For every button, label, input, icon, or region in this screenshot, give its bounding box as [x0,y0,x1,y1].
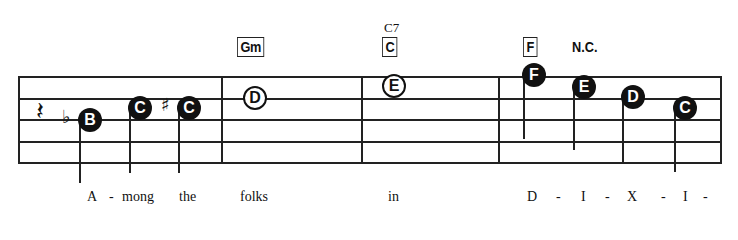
staff-line [18,76,720,78]
note-stem [622,97,624,162]
chord-symbol: C [382,37,398,57]
note-head: F [522,63,546,87]
note-head: E [382,74,406,98]
lyric-syllable: A [87,189,97,205]
staff-line [18,119,720,121]
lyric-syllable: - [556,189,561,205]
lyric-syllable: - [605,189,610,205]
barline [18,76,20,164]
lyric-syllable: I [581,189,586,205]
note-stem [129,108,131,173]
note-head: C [128,96,152,120]
note-head: B [78,108,102,132]
staff-line [18,98,720,100]
chord-symbol: N.C. [572,38,598,55]
note-head: C [177,96,201,120]
lyric-syllable: X [627,189,637,205]
note-head: C [673,96,697,120]
lyric-syllable: I [683,189,688,205]
note-stem [573,87,575,150]
barline [361,76,363,164]
note-stem [178,108,180,173]
barline [498,76,500,164]
lyric-syllable: folks [240,189,268,205]
chord-symbol: F [523,37,537,57]
staff-line [18,162,720,164]
lyric-syllable: in [388,189,399,205]
note-stem [523,75,525,139]
note-head: D [243,86,267,110]
chord-symbol: Gm [237,37,264,57]
note-head: E [572,75,596,99]
barline [221,76,223,164]
staff-line [18,141,720,143]
flat-icon: ♭ [62,106,71,127]
quarter-rest-icon: 𝄽 [36,96,44,127]
sharp-icon: ♯ [161,94,170,115]
lyric-syllable: mong [122,189,154,205]
note-stem [674,108,676,172]
chord-variant-label: C7 [384,20,399,36]
lyric-syllable: - [661,189,666,205]
barline [720,76,722,164]
lyric-syllable: - [703,189,708,205]
lyric-syllable: the [179,189,196,205]
note-head: D [621,85,645,109]
lyric-syllable: - [109,189,114,205]
lyric-syllable: D [527,189,537,205]
